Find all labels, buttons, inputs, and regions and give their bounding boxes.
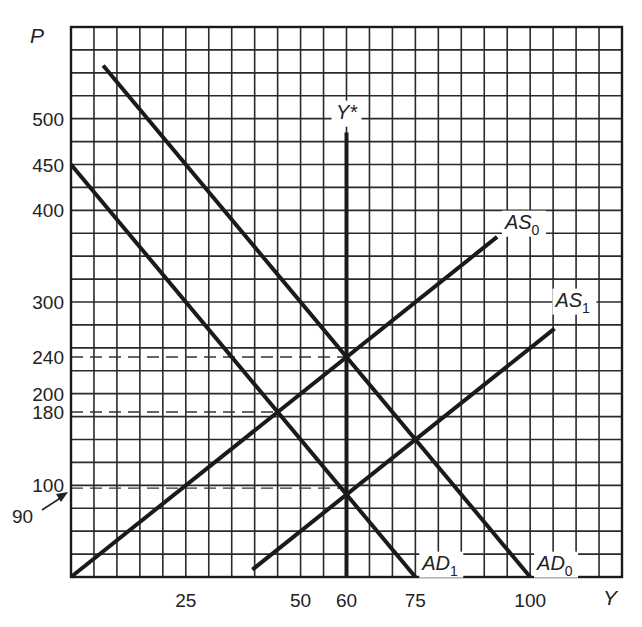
y-tick-label: 500 bbox=[32, 109, 64, 130]
annotation-90-label: 90 bbox=[12, 506, 33, 527]
label-y-star: Y* bbox=[336, 101, 358, 123]
x-tick-label: 50 bbox=[290, 590, 311, 611]
y-axis-ticks: 500450400300240200180100 bbox=[32, 109, 64, 497]
y-tick-label: 240 bbox=[32, 347, 64, 368]
y-annotation-90: 90 bbox=[12, 492, 68, 527]
x-axis-title: Y bbox=[603, 586, 619, 609]
x-axis-ticks: 25506075100 bbox=[175, 590, 546, 611]
ad-as-chart: AD0AD1AS0AS1Y* 500450400300240200180100 … bbox=[0, 0, 642, 627]
curve-as0 bbox=[71, 237, 497, 577]
x-tick-label: 75 bbox=[405, 590, 426, 611]
y-tick-label: 450 bbox=[32, 155, 64, 176]
y-tick-label: 100 bbox=[32, 475, 64, 496]
y-tick-label: 300 bbox=[32, 292, 64, 313]
y-axis-title: P bbox=[30, 24, 44, 47]
x-tick-label: 25 bbox=[175, 590, 196, 611]
curve-as1 bbox=[252, 329, 554, 570]
x-tick-label: 60 bbox=[336, 590, 357, 611]
x-tick-label: 100 bbox=[514, 590, 546, 611]
arrow-shaft bbox=[42, 497, 62, 510]
y-tick-label: 400 bbox=[32, 200, 64, 221]
y-tick-label: 180 bbox=[32, 402, 64, 423]
